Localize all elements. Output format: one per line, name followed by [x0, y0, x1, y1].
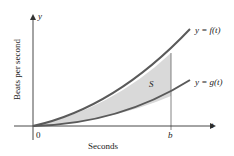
- y-axis-arrow-icon: [30, 14, 36, 20]
- shaded-region-s: [33, 53, 171, 126]
- b-label: b: [168, 131, 173, 140]
- y-axis-symbol: y: [38, 12, 42, 21]
- origin-label: 0: [36, 131, 41, 140]
- region-s-label: S: [149, 80, 154, 89]
- curve-f-label: y = f(t): [195, 26, 221, 35]
- area-between-curves-diagram: y t Beats per second Seconds 0 b S y = f…: [0, 0, 234, 156]
- y-axis-label: Beats per second: [12, 42, 22, 100]
- curve-g-label: y = g(t): [195, 78, 223, 87]
- t-axis-symbol: t: [211, 121, 214, 130]
- x-axis-label: Seconds: [88, 142, 118, 151]
